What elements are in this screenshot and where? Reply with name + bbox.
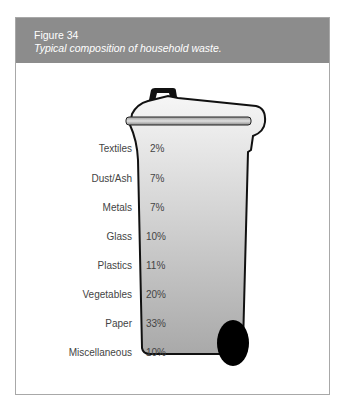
- row-label: Dust/Ash: [91, 173, 132, 184]
- bin-rim: [126, 117, 251, 125]
- row-label: Vegetables: [83, 289, 133, 300]
- row-label: Metals: [103, 202, 132, 213]
- row-label: Glass: [106, 231, 132, 242]
- row-label: Paper: [105, 318, 132, 329]
- row-value: 2%: [150, 143, 164, 154]
- row-label: Miscellaneous: [69, 347, 132, 358]
- row-value: 10%: [146, 231, 166, 242]
- row-label: Textiles: [99, 143, 132, 154]
- row-value: 7%: [150, 173, 164, 184]
- wheelie-bin-illustration: [0, 0, 344, 408]
- row-label: Plastics: [98, 260, 132, 271]
- row-value: 11%: [146, 260, 165, 271]
- row-value: 7%: [150, 202, 164, 213]
- row-value: 10%: [146, 347, 166, 358]
- row-value: 33%: [146, 318, 166, 329]
- bin-body: [130, 96, 265, 354]
- row-value: 20%: [146, 289, 166, 300]
- wheel-icon: [217, 320, 249, 366]
